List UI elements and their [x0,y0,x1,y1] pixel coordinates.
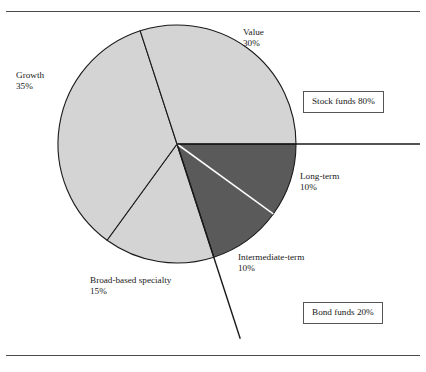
slice-label-intermediate-term: Intermediate-term 10% [238,252,304,275]
slice-label-long-term-percent: 10% [300,182,339,193]
slice-label-value-percent: 30% [243,38,264,49]
legend-box-bond-funds: Bond funds 20% [303,302,383,324]
legend-box-stock-funds: Stock funds 80% [303,91,384,113]
slice-label-growth-name: Growth [16,70,44,80]
slice-label-growth: Growth 35% [16,70,44,93]
slice-label-broad-based-specialty-percent: 15% [90,286,171,297]
slice-label-value-name: Value [243,27,264,37]
slice-label-intermediate-term-name: Intermediate-term [238,252,304,262]
slice-label-intermediate-term-percent: 10% [238,263,304,274]
slice-label-long-term: Long-term 10% [300,171,339,194]
slice-label-growth-percent: 35% [16,81,44,92]
slice-label-broad-based-specialty-name: Broad-based specialty [90,275,171,285]
slice-label-value: Value 30% [243,27,264,50]
slice-label-long-term-name: Long-term [300,171,339,181]
pie-chart-figure: Value 30% Growth 35% Long-term 10% Inter… [0,0,426,372]
slice-label-broad-based-specialty: Broad-based specialty 15% [90,275,171,298]
